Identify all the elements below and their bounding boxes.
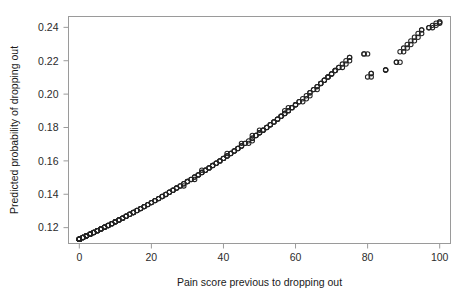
y-tick-label: 0.12 xyxy=(38,221,59,233)
y-axis-title: Predicted probability of dropping out xyxy=(8,46,20,214)
y-tick-label: 0.24 xyxy=(38,21,59,33)
x-tick-label: 100 xyxy=(431,251,449,263)
y-tick-label: 0.16 xyxy=(38,155,59,167)
y-tick-label: 0.14 xyxy=(38,188,59,200)
scatter-plot-figure: 0204060801000.120.140.160.180.200.220.24… xyxy=(0,0,467,299)
y-tick-label: 0.18 xyxy=(38,121,59,133)
x-tick-label: 20 xyxy=(146,251,158,263)
x-tick-label: 0 xyxy=(76,251,82,263)
x-tick-label: 80 xyxy=(362,251,374,263)
plot-canvas: 0204060801000.120.140.160.180.200.220.24… xyxy=(0,0,467,299)
x-axis-title: Pain score previous to dropping out xyxy=(177,276,342,288)
x-tick-label: 60 xyxy=(290,251,302,263)
y-tick-label: 0.20 xyxy=(38,88,59,100)
y-tick-label: 0.22 xyxy=(38,55,59,67)
x-tick-label: 40 xyxy=(218,251,230,263)
